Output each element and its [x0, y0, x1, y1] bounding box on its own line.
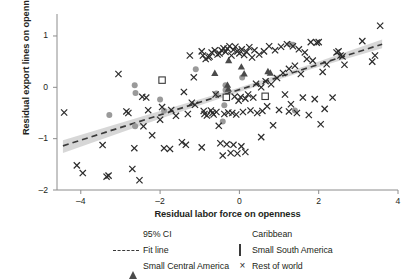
series-rest-of-world	[61, 23, 383, 184]
legend-item-rest-of-world: × Rest of world	[237, 261, 303, 271]
legend-label-rest-of-world: Rest of world	[252, 261, 303, 271]
data-point	[221, 102, 227, 108]
y-tick-label: 0	[0, 82, 48, 92]
x-tick-label: 4	[378, 196, 405, 206]
data-point	[157, 96, 163, 102]
cross-x-icon: ×	[237, 261, 248, 271]
series-small-central-america	[211, 57, 274, 92]
x-axis-label: Residual labor force on openness	[55, 209, 400, 219]
legend-item-caribbean: Caribbean	[237, 229, 292, 239]
legend-label-small-south-america: Small South America	[252, 245, 333, 255]
chart-legend: 95% CI Caribbean Fit line Small South Am…	[0, 228, 405, 276]
data-point	[223, 94, 229, 100]
dashed-line-icon	[113, 245, 139, 255]
x-tick-label: –4	[61, 196, 101, 206]
legend-label-ci: 95% CI	[143, 229, 172, 239]
x-tick-label: 0	[219, 196, 259, 206]
x-tick-label: 2	[299, 196, 339, 206]
data-point	[132, 82, 138, 88]
x-tick-label: –2	[140, 196, 180, 206]
legend-label-fit-line: Fit line	[143, 245, 169, 255]
y-axis-label: Residual export lines on openness	[21, 0, 31, 150]
data-point	[238, 63, 245, 69]
data-point	[132, 123, 138, 129]
data-point	[159, 77, 165, 83]
legend-item-small-central-america: Small Central America	[128, 261, 229, 271]
data-point	[241, 70, 248, 76]
data-point	[106, 112, 112, 118]
fit-line	[63, 44, 382, 146]
data-point	[133, 90, 139, 96]
legend-item-small-south-america: Small South America	[237, 245, 333, 255]
legend-label-small-central-america: Small Central America	[143, 261, 229, 271]
y-tick-label: 1	[0, 30, 48, 40]
legend-label-caribbean: Caribbean	[252, 229, 292, 239]
open-square-icon	[239, 244, 241, 256]
filled-triangle-icon	[129, 261, 137, 279]
legend-item-ci: 95% CI	[128, 229, 172, 239]
y-tick-label: –2	[0, 185, 48, 195]
legend-item-fit-line: Fit line	[113, 245, 169, 255]
data-point	[262, 93, 268, 99]
y-tick-label: –1	[0, 133, 48, 143]
data-point	[193, 66, 199, 72]
data-point	[211, 70, 218, 76]
